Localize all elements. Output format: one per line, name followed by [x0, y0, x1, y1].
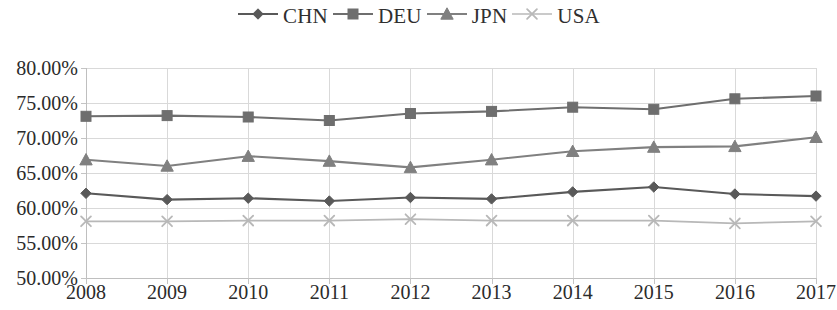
x-axis-tick-label: 2015: [634, 281, 674, 303]
x-axis-tick-label: 2008: [66, 281, 106, 303]
plot-area: 80.00%75.00%70.00%65.00%60.00%55.00%50.0…: [0, 0, 837, 310]
x-axis-tick-label: 2013: [472, 281, 512, 303]
x-axis-tick-label: 2011: [310, 281, 349, 303]
x-axis-tick-label: 2010: [228, 281, 268, 303]
x-axis-tick-label: 2012: [390, 281, 430, 303]
line-chart: CHNDEUJPNUSA 80.00%75.00%70.00%65.00%60.…: [0, 0, 837, 310]
x-axis-tick-label: 2009: [147, 281, 187, 303]
x-axis-tick-label: 2017: [796, 281, 836, 303]
x-axis-tick-label: 2016: [715, 281, 755, 303]
x-axis-tick-label: 2014: [553, 281, 593, 303]
x-axis-labels: 2008200920102011201220132014201520162017: [0, 0, 837, 310]
